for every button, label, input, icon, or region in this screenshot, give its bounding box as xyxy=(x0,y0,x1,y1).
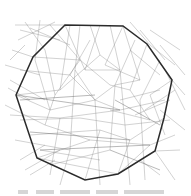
figure-background xyxy=(0,0,191,196)
mesh-figure xyxy=(0,0,191,196)
